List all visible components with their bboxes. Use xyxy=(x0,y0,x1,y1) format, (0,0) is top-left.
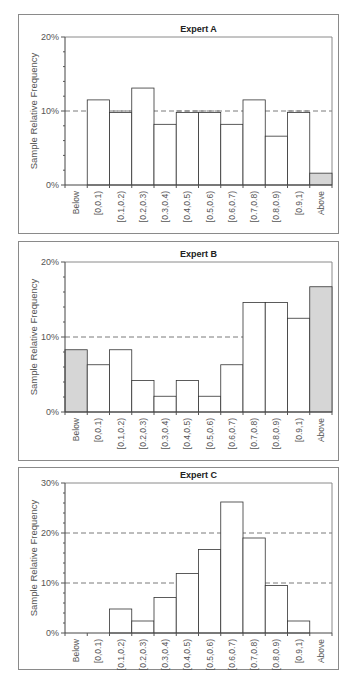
x-category-label: [0.6,0.7) xyxy=(227,191,237,222)
x-category-label: [0.8,0.9) xyxy=(271,418,281,449)
x-category-label: [0.9,1) xyxy=(294,639,304,663)
x-category-label: [0,0.1) xyxy=(93,639,103,663)
chart-panel-expert-a: Expert ASample Relative Frequency0%10%20… xyxy=(18,14,339,234)
x-category-label: [0.3,0.4) xyxy=(160,191,170,222)
x-category-label: [0.7,0.8) xyxy=(249,191,259,222)
y-axis-title: Sample Relative Frequency xyxy=(28,52,39,169)
bar xyxy=(199,112,221,185)
x-category-label: Above xyxy=(316,191,326,215)
x-category-label: [0.1,0.2) xyxy=(116,418,126,449)
chart-panel-expert-c: Expert CSample Relative Frequency0%10%20… xyxy=(18,467,339,670)
bar xyxy=(154,598,176,634)
y-tick-label: 30% xyxy=(41,478,59,488)
chart-svg: Expert BSample Relative Frequency0%10%20… xyxy=(19,242,340,462)
bar xyxy=(265,136,287,185)
x-category-label: [0.7,0.8) xyxy=(249,418,259,449)
x-category-label: [0.8,0.9) xyxy=(271,191,281,222)
y-tick-label: 20% xyxy=(41,32,59,42)
x-category-label: [0.2,0.3) xyxy=(138,418,148,449)
x-category-label: [0.1,0.2) xyxy=(116,191,126,222)
y-axis-title: Sample Relative Frequency xyxy=(28,499,39,616)
x-category-label: [0.4,0.5) xyxy=(182,191,192,222)
x-category-label: [0.4,0.5) xyxy=(182,418,192,449)
bar xyxy=(176,381,198,413)
chart-svg: Expert ASample Relative Frequency0%10%20… xyxy=(19,15,340,235)
x-category-label: [0,0.1) xyxy=(93,191,103,215)
x-category-label: [0.1,0.2) xyxy=(116,639,126,670)
bar xyxy=(265,586,287,634)
x-category-label: [0.5,0.6) xyxy=(205,191,215,222)
chart-title: Expert C xyxy=(180,470,218,480)
y-tick-label: 10% xyxy=(41,332,59,342)
bar xyxy=(221,502,243,633)
y-tick-label: 0% xyxy=(46,628,59,638)
bar xyxy=(265,303,287,413)
bar xyxy=(87,100,109,185)
x-category-label: Below xyxy=(71,190,81,214)
bar xyxy=(65,350,87,412)
bar xyxy=(243,538,265,633)
y-tick-label: 10% xyxy=(41,106,59,116)
bar xyxy=(132,88,154,185)
x-category-label: [0.5,0.6) xyxy=(205,418,215,449)
x-category-label: [0.7,0.8) xyxy=(249,639,259,670)
x-category-label: [0.9,1) xyxy=(294,418,304,442)
x-category-label: Below xyxy=(71,417,81,441)
y-tick-label: 20% xyxy=(41,528,59,538)
bar xyxy=(221,365,243,412)
bar xyxy=(176,112,198,185)
chart-svg: Expert CSample Relative Frequency0%10%20… xyxy=(19,468,340,671)
chart-title: Expert A xyxy=(180,24,217,34)
chart-title: Expert B xyxy=(180,249,218,259)
x-category-label: [0.8,0.9) xyxy=(271,639,281,670)
bar xyxy=(310,173,332,185)
bar xyxy=(288,318,310,412)
y-tick-label: 0% xyxy=(46,180,59,190)
bar xyxy=(176,574,198,634)
x-category-label: [0.3,0.4) xyxy=(160,418,170,449)
x-category-label: Below xyxy=(71,638,81,662)
bar xyxy=(110,609,132,633)
bar xyxy=(243,100,265,185)
y-tick-label: 0% xyxy=(46,407,59,417)
bar xyxy=(310,287,332,412)
bar xyxy=(110,112,132,185)
x-category-label: [0.2,0.3) xyxy=(138,639,148,670)
bar xyxy=(288,112,310,185)
x-category-label: [0.6,0.7) xyxy=(227,639,237,670)
y-axis-title: Sample Relative Frequency xyxy=(28,278,39,395)
bar xyxy=(87,365,109,412)
bar xyxy=(154,396,176,412)
y-tick-label: 20% xyxy=(41,257,59,267)
bar xyxy=(132,621,154,633)
bar xyxy=(243,303,265,413)
x-category-label: Above xyxy=(316,418,326,442)
x-category-label: [0.5,0.6) xyxy=(205,639,215,670)
bar xyxy=(288,621,310,633)
bar xyxy=(154,124,176,185)
x-category-label: [0.3,0.4) xyxy=(160,639,170,670)
x-category-label: Above xyxy=(316,639,326,663)
x-category-label: [0,0.1) xyxy=(93,418,103,442)
bar xyxy=(110,350,132,412)
x-category-label: [0.4,0.5) xyxy=(182,639,192,670)
bar xyxy=(221,124,243,185)
x-category-label: [0.2,0.3) xyxy=(138,191,148,222)
bar xyxy=(199,396,221,412)
chart-panel-expert-b: Expert BSample Relative Frequency0%10%20… xyxy=(18,241,339,461)
y-tick-label: 10% xyxy=(41,578,59,588)
bar xyxy=(199,550,221,634)
x-category-label: [0.9,1) xyxy=(294,191,304,215)
bar xyxy=(132,381,154,413)
x-category-label: [0.6,0.7) xyxy=(227,418,237,449)
